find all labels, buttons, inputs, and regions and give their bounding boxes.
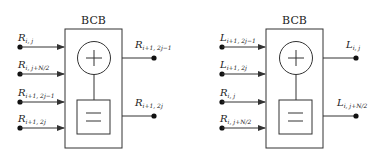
output-port: Ri+1, 2j <box>122 97 163 119</box>
svg-text:Ri+1, 2j: Ri+1, 2j <box>17 113 46 126</box>
input-port: Ri+1, 2j−1 <box>17 87 64 105</box>
svg-text:Li, j: Li, j <box>345 39 360 52</box>
svg-text:Ri+1, 2j: Ri+1, 2j <box>134 97 163 110</box>
input-port: Ri, j+N/2 <box>219 113 265 131</box>
input-port: Ri+1, 2j <box>17 113 64 131</box>
block-title: BCB <box>81 14 106 27</box>
svg-text:Li+1, 2j: Li+1, 2j <box>219 59 247 72</box>
input-port: Ri, j <box>219 87 265 105</box>
equals-operator-icon <box>279 100 312 134</box>
output-port: Ri+1, 2j−1 <box>122 39 172 61</box>
bcb-diagram: BCB Ri, j Ri, j+N/2 Ri+1, 2 <box>0 0 384 165</box>
input-port: Ri, j+N/2 <box>17 59 64 77</box>
svg-text:Ri, j: Ri, j <box>219 87 235 100</box>
svg-text:Ri, j+N/2: Ri, j+N/2 <box>17 59 49 72</box>
input-port: Li+1, 2j <box>219 59 265 77</box>
input-port: Ri, j <box>17 32 64 50</box>
equals-operator-icon <box>77 100 110 134</box>
output-port: Li, j+N/2 <box>323 97 368 119</box>
svg-text:Ri+1, 2j−1: Ri+1, 2j−1 <box>134 39 172 52</box>
svg-text:Ri, j+N/2: Ri, j+N/2 <box>219 113 251 126</box>
block-title: BCB <box>282 14 307 27</box>
plus-operator-icon <box>280 42 313 75</box>
plus-operator-icon <box>78 42 111 75</box>
svg-text:Li+1, 2j−1: Li+1, 2j−1 <box>219 32 256 45</box>
svg-text:Li, j+N/2: Li, j+N/2 <box>336 97 368 110</box>
svg-text:Ri+1, 2j−1: Ri+1, 2j−1 <box>17 87 55 100</box>
output-port: Li, j <box>323 39 360 61</box>
svg-text:Ri, j: Ri, j <box>17 32 33 45</box>
bcb-block-left: BCB Ri, j Ri, j+N/2 Ri+1, 2 <box>17 14 172 148</box>
bcb-box <box>266 29 323 148</box>
input-port: Li+1, 2j−1 <box>219 32 265 50</box>
bcb-block-right: BCB Li+1, 2j−1 Li+1, 2j Ri, j <box>219 14 368 148</box>
